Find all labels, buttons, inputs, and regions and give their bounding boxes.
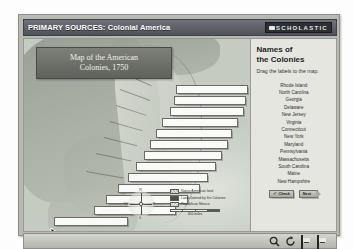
compass-rose-icon: N S E W bbox=[128, 191, 154, 217]
scholastic-logo: SCHOLASTIC bbox=[265, 22, 333, 33]
map-canvas[interactable]: Map of the American Colonies, 1750 bbox=[24, 39, 251, 231]
arrow-pointer-icon bbox=[50, 227, 63, 231]
colony-label-massachusetts[interactable]: Massachusetts bbox=[257, 156, 332, 163]
notebook-icon[interactable] bbox=[317, 236, 328, 247]
colony-label-pennsylvania[interactable]: Pennsylvania bbox=[257, 148, 332, 155]
panel-instruction: Drag the labels to the map. bbox=[257, 68, 332, 75]
drop-target[interactable] bbox=[144, 151, 222, 160]
colony-label-georgia[interactable]: Georgia bbox=[257, 96, 332, 103]
magnify-icon[interactable] bbox=[269, 236, 280, 247]
colony-label-new-york[interactable]: New York bbox=[257, 133, 332, 140]
title-secondary: Colonial America bbox=[108, 23, 171, 32]
legend-swatch-colonies bbox=[170, 196, 179, 201]
print-icon[interactable] bbox=[301, 236, 312, 247]
colony-label-delaware[interactable]: Delaware bbox=[257, 104, 332, 111]
title-bar: PRIMARY SOURCES: Colonial America SCHOLA… bbox=[23, 19, 337, 36]
bottom-toolbar bbox=[23, 233, 337, 249]
drop-target[interactable] bbox=[128, 173, 208, 182]
panel-button-row: ✓ Check Next bbox=[257, 190, 332, 198]
brand-label: SCHOLASTIC bbox=[276, 25, 328, 31]
drop-target[interactable] bbox=[136, 162, 216, 171]
colony-label-virginia[interactable]: Virginia bbox=[257, 119, 332, 126]
next-button[interactable]: Next bbox=[299, 190, 318, 198]
colony-label-connecticut[interactable]: Connecticut bbox=[257, 126, 332, 133]
legend-item: Republican Mexico bbox=[170, 202, 244, 207]
drop-target[interactable] bbox=[162, 118, 238, 127]
book-glyph-icon bbox=[269, 26, 275, 30]
drop-target[interactable] bbox=[174, 96, 246, 105]
page-title: PRIMARY SOURCES: Colonial America bbox=[28, 23, 170, 32]
map-scale-bar: 400 miles bbox=[170, 209, 244, 216]
colony-label-new-hampshire[interactable]: New Hampshire bbox=[257, 178, 332, 185]
scale-bar-label: 400 miles bbox=[170, 212, 220, 216]
panel-heading: Names of the Colonies bbox=[257, 45, 332, 64]
colony-label-new-jersey[interactable]: New Jersey bbox=[257, 111, 332, 118]
colony-label-rhode-island[interactable]: Rhode Island bbox=[257, 82, 332, 89]
content-area: Map of the American Colonies, 1750 bbox=[23, 38, 337, 232]
map-title-line1: Map of the American bbox=[70, 53, 138, 63]
screenshot-root: PRIMARY SOURCES: Colonial America SCHOLA… bbox=[0, 0, 354, 249]
colony-label-north-carolina[interactable]: North Carolina bbox=[257, 89, 332, 96]
panel-heading-line2: the Colonies bbox=[257, 55, 332, 65]
legend-swatch-native bbox=[170, 189, 179, 194]
map-title-banner: Map of the American Colonies, 1750 bbox=[36, 47, 172, 79]
compass-s: S bbox=[139, 215, 141, 220]
compass-n: N bbox=[139, 187, 142, 192]
application-frame: PRIMARY SOURCES: Colonial America SCHOLA… bbox=[18, 14, 340, 236]
drop-target[interactable] bbox=[170, 107, 244, 116]
check-answers-button[interactable]: ✓ Check bbox=[269, 190, 293, 198]
legend-label: Land claimed by the Colonies bbox=[181, 196, 225, 201]
drop-target[interactable] bbox=[54, 217, 128, 226]
title-primary: PRIMARY SOURCES: bbox=[28, 23, 105, 32]
check-button-label: Check bbox=[278, 192, 289, 196]
next-button-label: Next bbox=[303, 192, 311, 196]
map-legend: Native American land Land claimed by the… bbox=[170, 189, 244, 216]
legend-label: Republican Mexico bbox=[181, 202, 210, 207]
drop-target[interactable] bbox=[156, 129, 232, 138]
colony-label-list: Rhode Island North Carolina Georgia Dela… bbox=[257, 82, 332, 186]
compass-w: W bbox=[124, 201, 128, 206]
colony-label-south-carolina[interactable]: South Carolina bbox=[257, 163, 332, 170]
legend-swatch-other bbox=[170, 202, 179, 207]
reload-icon[interactable] bbox=[285, 236, 296, 247]
compass-e: E bbox=[153, 201, 155, 206]
map-title-line2: Colonies, 1750 bbox=[80, 63, 128, 73]
colony-label-maryland[interactable]: Maryland bbox=[257, 141, 332, 148]
side-panel: Names of the Colonies Drag the labels to… bbox=[251, 39, 337, 231]
colony-label-maine[interactable]: Maine bbox=[257, 170, 332, 177]
legend-item: Land claimed by the Colonies bbox=[170, 196, 244, 201]
legend-item: Native American land bbox=[170, 189, 244, 194]
checkmark-icon: ✓ bbox=[273, 192, 277, 196]
drop-target[interactable] bbox=[150, 140, 228, 149]
panel-heading-line1: Names of bbox=[257, 45, 332, 55]
legend-label: Native American land bbox=[181, 189, 213, 194]
drop-target[interactable] bbox=[176, 85, 248, 94]
